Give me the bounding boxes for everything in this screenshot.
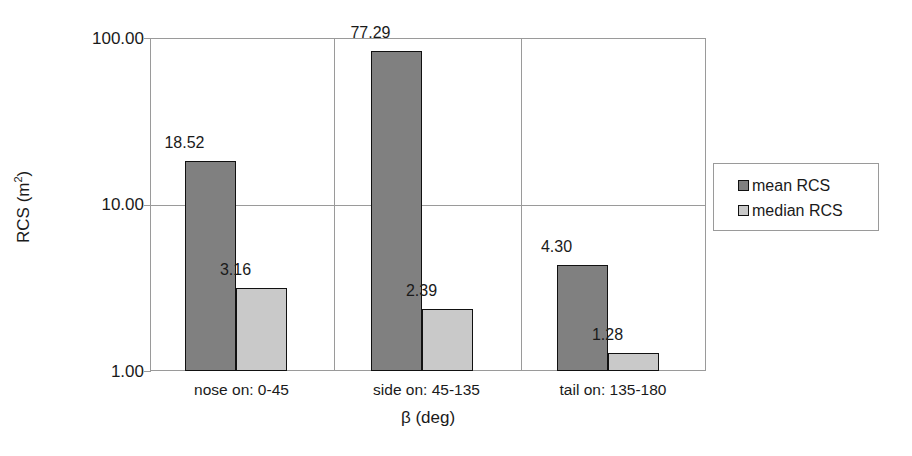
bar-value-median-nose-on: 3.16 — [198, 262, 273, 278]
y-axis-title-superscript: 2 — [12, 176, 24, 182]
legend-label-median-rcs: median RCS — [752, 203, 843, 219]
y-tick-label-100: 100.00 — [48, 30, 144, 47]
bar-mean-side-on[interactable] — [371, 51, 422, 371]
legend-item-median-rcs[interactable]: median RCS — [738, 198, 878, 223]
x-tick-label-side-on: side on: 45-135 — [333, 381, 520, 399]
bar-value-median-tail-on: 1.28 — [570, 327, 645, 343]
y-tick-label-10: 10.00 — [48, 196, 144, 213]
x-axis-title: β (deg) — [150, 408, 706, 428]
bar-median-tail-on[interactable] — [608, 353, 659, 371]
bar-median-nose-on[interactable] — [236, 288, 287, 371]
legend-label-mean-rcs: mean RCS — [752, 178, 830, 194]
y-tick-mark-1 — [144, 371, 151, 372]
x-tick-label-tail-on: tail on: 135-180 — [520, 381, 706, 399]
legend-swatch-median-rcs — [738, 205, 749, 216]
category-separator-2 — [521, 39, 522, 370]
y-tick-label-1: 1.00 — [48, 363, 144, 380]
legend-swatch-mean-rcs — [738, 180, 749, 191]
bar-value-mean-nose-on: 18.52 — [147, 135, 222, 151]
bar-value-mean-side-on: 77.29 — [333, 25, 408, 41]
bar-median-side-on[interactable] — [422, 309, 473, 371]
y-axis-title-close: ) — [14, 171, 33, 177]
y-axis-tick-group: 100.00 10.00 1.00 — [40, 0, 144, 456]
x-tick-label-nose-on: nose on: 0-45 — [150, 381, 333, 399]
rcs-bar-chart: RCS (m2) 100.00 10.00 1.00 18.52 3.16 77… — [0, 0, 912, 456]
legend-item-mean-rcs[interactable]: mean RCS — [738, 173, 878, 198]
bar-value-median-side-on: 2.39 — [384, 283, 459, 299]
bar-value-mean-tail-on: 4.30 — [519, 239, 594, 255]
y-axis-title: RCS (m2) — [12, 132, 34, 282]
category-separator-1 — [334, 39, 335, 370]
bar-mean-tail-on[interactable] — [557, 265, 608, 371]
plot-area — [150, 38, 706, 371]
y-axis-title-text: RCS (m — [14, 183, 33, 243]
legend: mean RCS median RCS — [713, 163, 879, 231]
